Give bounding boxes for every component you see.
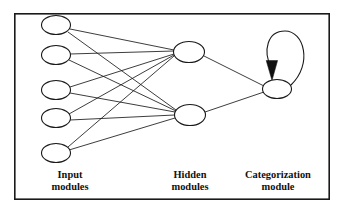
input-node-1[interactable] — [42, 16, 71, 35]
input-label-line1: Input — [58, 169, 83, 180]
categorization-label-line1: Categorization — [245, 169, 311, 180]
input-node-2[interactable] — [42, 46, 71, 65]
hidden-node-1[interactable] — [174, 42, 205, 63]
input-node-4[interactable] — [42, 109, 71, 128]
input-label-line2: modules — [52, 181, 89, 192]
hidden-label-line1: Hidden — [174, 169, 207, 180]
categorization-node-1[interactable] — [263, 80, 292, 99]
figure-container: Input modules Hidden modules Categorizat… — [0, 0, 344, 214]
categorization-label-line2: module — [262, 181, 295, 192]
network-diagram: Input modules Hidden modules Categorizat… — [0, 0, 344, 214]
hidden-node-2[interactable] — [175, 105, 206, 126]
input-node-3[interactable] — [42, 81, 71, 100]
hidden-label-line2: modules — [172, 181, 209, 192]
input-node-5[interactable] — [42, 144, 71, 163]
